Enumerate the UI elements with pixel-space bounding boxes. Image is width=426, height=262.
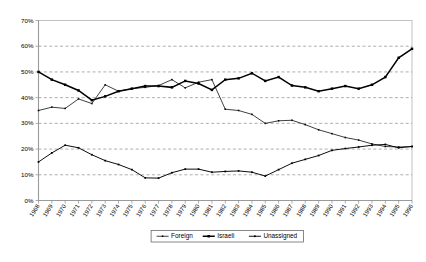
chart-figure: 0%10%20%30%40%50%60%70%19681969197019711… [0,0,426,262]
data-point-israeli [77,89,79,91]
data-point-foreign [91,103,93,105]
x-axis-tick-label: 1979 [175,203,188,218]
legend-label-unassigned: Unassigned [263,232,297,240]
data-point-unassigned [318,155,320,157]
data-point-unassigned [264,175,266,177]
x-axis-tick-label: 1980 [188,203,201,218]
data-point-unassigned [371,144,373,146]
x-axis-tick-label: 1981 [202,203,215,218]
data-point-unassigned [64,144,66,146]
data-point-unassigned [131,169,133,171]
data-point-israeli [91,99,93,101]
data-point-israeli [384,76,386,78]
data-point-israeli [291,84,293,86]
legend-label-foreign: Foreign [171,232,193,240]
y-axis-tick-label: 10% [21,171,34,178]
y-axis-tick-label: 60% [21,42,34,49]
x-axis-tick-label: 1974 [108,203,121,218]
y-axis-tick-label: 30% [21,119,34,126]
data-point-unassigned [118,164,120,166]
x-axis-tick-label: 1983 [228,203,241,218]
data-point-unassigned [144,177,146,179]
data-point-unassigned [358,146,360,148]
x-axis-tick-label: 1970 [55,203,68,218]
data-point-unassigned [51,152,53,154]
legend-point-unassigned [254,235,256,237]
series-line-israeli [39,49,413,100]
data-point-foreign [238,110,240,112]
data-point-foreign [64,108,66,110]
data-point-unassigned [78,147,80,149]
data-point-unassigned [184,168,186,170]
data-point-unassigned [344,148,346,150]
legend-label-israeli: Israeli [217,232,234,239]
data-point-foreign [264,123,266,125]
data-point-foreign [331,133,333,135]
data-point-foreign [224,108,226,110]
data-point-unassigned [104,160,106,162]
data-point-israeli [131,87,133,89]
data-point-israeli [184,80,186,82]
x-axis-tick-label: 1971 [68,203,81,218]
data-point-unassigned [158,177,160,179]
legend-point-foreign [162,235,164,237]
x-axis-tick-label: 1989 [309,203,322,218]
data-point-unassigned [278,169,280,171]
x-axis-tick-label: 1994 [375,203,388,218]
y-axis-tick-label: 40% [21,94,34,101]
series-line-foreign [39,80,413,147]
data-point-foreign [251,114,253,116]
data-point-israeli [277,76,279,78]
data-point-israeli [411,48,413,50]
y-axis-tick-label: 0% [25,197,34,204]
x-axis-tick-label: 1995 [389,203,402,218]
y-axis-tick-label: 20% [21,145,34,152]
plot-area-frame [39,21,413,201]
data-point-unassigned [411,146,413,148]
x-axis-tick-label: 1975 [122,203,135,218]
data-point-israeli [104,95,106,97]
x-axis-tick-label: 1993 [362,203,375,218]
data-point-foreign [104,84,106,86]
data-point-foreign [385,146,387,148]
data-point-foreign [184,87,186,89]
x-axis-tick-label: 1978 [162,203,175,218]
data-point-foreign [211,79,213,81]
data-point-israeli [157,85,159,87]
x-axis-tick-label: 1976 [135,203,148,218]
data-point-foreign [318,129,320,131]
data-point-unassigned [91,154,93,156]
data-point-israeli [357,87,359,89]
data-point-foreign [51,106,53,108]
data-point-foreign [305,124,307,126]
y-axis-tick-label: 50% [21,68,34,75]
data-point-unassigned [331,149,333,151]
data-point-israeli [51,78,53,80]
data-point-israeli [371,84,373,86]
data-point-israeli [397,57,399,59]
data-point-foreign [278,120,280,122]
data-point-israeli [117,90,119,92]
data-point-foreign [171,79,173,81]
data-point-israeli [64,84,66,86]
x-axis-tick-label: 1982 [215,203,228,218]
data-point-unassigned [198,168,200,170]
data-point-israeli [144,85,146,87]
line-chart: 0%10%20%30%40%50%60%70%19681969197019711… [0,0,426,262]
data-point-unassigned [304,158,306,160]
data-point-israeli [264,80,266,82]
data-point-israeli [331,87,333,89]
data-point-unassigned [224,171,226,173]
data-point-unassigned [238,170,240,172]
data-point-israeli [251,72,253,74]
x-axis-tick-label: 1988 [295,203,308,218]
x-axis-tick-label: 1973 [95,203,108,218]
data-point-unassigned [251,171,253,173]
data-point-israeli [317,90,319,92]
x-axis-tick-label: 1991 [335,203,348,218]
data-point-israeli [171,86,173,88]
data-point-israeli [211,89,213,91]
data-point-unassigned [398,147,400,149]
data-point-israeli [237,77,239,79]
x-axis-tick-label: 1996 [402,203,415,218]
